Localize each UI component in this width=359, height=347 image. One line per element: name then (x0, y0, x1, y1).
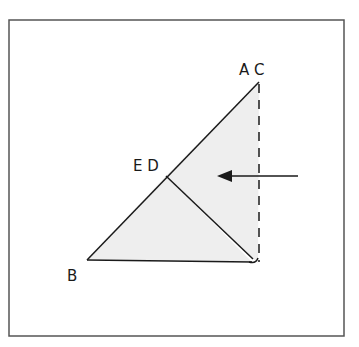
label-ac: A C (239, 61, 265, 79)
fold-diagram-svg: A C E D B (0, 0, 359, 347)
label-b: B (67, 267, 77, 285)
label-ed: E D (133, 157, 159, 175)
diagram-canvas: A C E D B (0, 0, 359, 347)
